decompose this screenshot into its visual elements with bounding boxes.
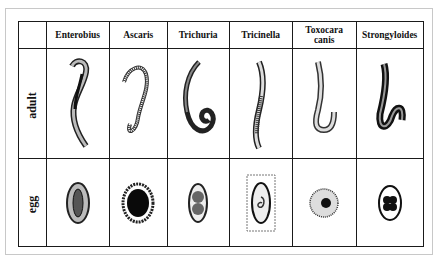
toxocara-egg bbox=[292, 159, 356, 247]
worm-icon bbox=[304, 54, 344, 154]
worm-icon bbox=[368, 54, 412, 154]
col-header-trichuria: Trichuria bbox=[167, 22, 229, 49]
ascaris-adult-worm bbox=[109, 49, 167, 159]
row-label-egg: egg bbox=[19, 159, 47, 247]
worm-icon bbox=[118, 54, 158, 154]
larva-cyst-icon bbox=[244, 171, 278, 235]
tricinella-larva-in-muscle bbox=[229, 159, 292, 247]
trichuria-adult-worm bbox=[167, 49, 229, 159]
egg-row: egg bbox=[19, 159, 424, 247]
egg-icon bbox=[63, 178, 93, 228]
egg-icon bbox=[120, 178, 156, 228]
col-header-ascaris: Ascaris bbox=[109, 22, 167, 49]
enterobius-adult-worm bbox=[46, 49, 109, 159]
strongyloides-egg bbox=[356, 159, 423, 247]
header-row: Enterobius Ascaris Trichuria Tricinella … bbox=[19, 22, 424, 49]
row-label-adult: adult bbox=[19, 49, 47, 159]
col-header-enterobius: Enterobius bbox=[46, 22, 109, 49]
ascaris-egg bbox=[109, 159, 167, 247]
adult-row: adult bbox=[19, 49, 424, 159]
tricinella-adult-worm bbox=[229, 49, 292, 159]
egg-icon bbox=[307, 183, 341, 223]
egg-icon bbox=[375, 181, 405, 225]
col-header-strongyloides: Strongyloides bbox=[356, 22, 423, 49]
worm-icon bbox=[241, 54, 281, 154]
col-header-tricinella: Tricinella bbox=[229, 22, 292, 49]
header-line-2: canis bbox=[314, 35, 335, 45]
trichuria-egg bbox=[167, 159, 229, 247]
worm-icon bbox=[173, 54, 223, 154]
strongyloides-adult-worm bbox=[356, 49, 423, 159]
col-header-toxocara-canis: Toxocaracanis bbox=[292, 22, 356, 49]
parasite-table: Enterobius Ascaris Trichuria Tricinella … bbox=[18, 21, 424, 247]
egg-icon bbox=[186, 178, 210, 228]
header-line-1: Toxocara bbox=[305, 25, 343, 35]
corner-cell bbox=[19, 22, 47, 49]
worm-icon bbox=[58, 54, 98, 154]
toxocara-adult-worm bbox=[292, 49, 356, 159]
enterobius-egg bbox=[46, 159, 109, 247]
